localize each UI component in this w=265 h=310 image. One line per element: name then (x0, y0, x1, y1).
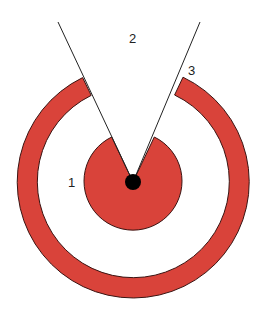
center-dot (125, 174, 141, 190)
target-diagram: 1 2 3 (0, 0, 265, 310)
label-region-2: 2 (129, 31, 136, 46)
label-region-3: 3 (188, 63, 195, 78)
label-region-1: 1 (68, 175, 75, 190)
